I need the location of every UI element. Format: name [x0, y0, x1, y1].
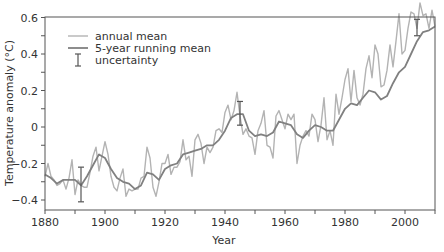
y-tick-label: 0 — [31, 121, 38, 134]
x-tick-label: 1880 — [31, 216, 59, 229]
x-tick-label: 1920 — [151, 216, 179, 229]
x-tick-label: 1900 — [91, 216, 119, 229]
y-tick-label: −0.4 — [11, 194, 38, 207]
x-tick-label: 1980 — [331, 216, 359, 229]
x-tick-label: 1940 — [211, 216, 239, 229]
y-axis-title: Temperature anomaly (°C) — [3, 40, 16, 187]
x-tick-label: 1960 — [271, 216, 299, 229]
legend-label: uncertainty — [95, 54, 159, 67]
legend: annual mean5-year running meanuncertaint… — [68, 30, 211, 67]
temperature-anomaly-chart: 0.60.40.20−0.2−0.4 188019001920194019601… — [0, 0, 444, 252]
y-axis: 0.60.40.20−0.2−0.4 — [11, 12, 45, 208]
y-tick-label: 0.6 — [21, 12, 39, 25]
x-axis-title: Year — [211, 234, 236, 247]
legend-item: uncertainty — [75, 54, 159, 67]
x-axis: 1880190019201940196019802000 — [31, 210, 435, 229]
x-tick-label: 2000 — [391, 216, 419, 229]
y-tick-label: 0.2 — [21, 85, 39, 98]
uncertainty-bar — [414, 19, 420, 35]
y-tick-label: 0.4 — [21, 48, 39, 61]
errorbar-icon — [75, 54, 81, 66]
